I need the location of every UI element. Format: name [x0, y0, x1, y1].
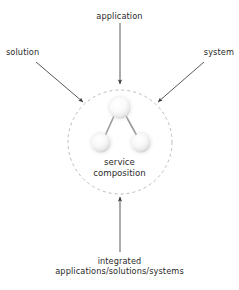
application-label: application: [0, 11, 239, 21]
service-composition-line1: service: [104, 157, 135, 167]
service-composition-diagram: application solution system integrated a…: [0, 0, 239, 290]
system-label: system: [168, 47, 234, 57]
top-sphere: [110, 98, 131, 119]
integrated-label-line2: applications/solutions/systems: [0, 266, 239, 276]
service-composition-label: service composition: [0, 157, 239, 178]
bottom-left-sphere: [92, 134, 111, 153]
diagram-artwork: [0, 0, 239, 290]
bottom-right-sphere: [132, 134, 151, 153]
solution-label: solution: [6, 47, 72, 57]
service-composition-line2: composition: [0, 168, 239, 179]
system-arrow: [158, 62, 204, 102]
integrated-label: integrated applications/solutions/system…: [0, 256, 239, 276]
integrated-label-line1: integrated: [98, 256, 142, 266]
solution-arrow: [36, 62, 83, 102]
